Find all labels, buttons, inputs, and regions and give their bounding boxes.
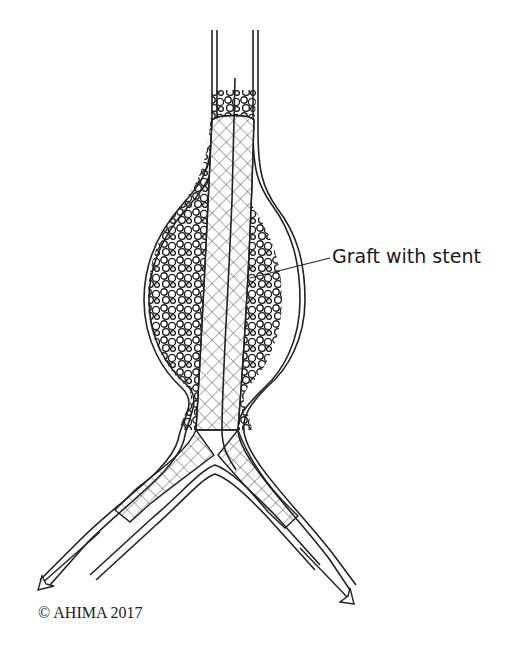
copyright-notice: © AHIMA 2017 <box>38 604 143 622</box>
aneurysm-graft-diagram <box>0 0 522 645</box>
flow-arrow-left <box>38 532 100 590</box>
aneurysm-sac <box>40 30 356 590</box>
graft-with-stent-label: Graft with stent <box>332 245 481 267</box>
